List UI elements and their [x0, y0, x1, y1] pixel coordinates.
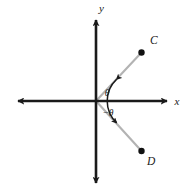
point-D-label: D — [146, 155, 156, 167]
coordinate-plane-svg: y x C D θ −θ — [0, 0, 189, 195]
point-C-label: C — [150, 34, 158, 46]
x-axis-label: x — [174, 95, 180, 107]
ray-to-C-line — [96, 53, 142, 102]
theta-label: θ — [105, 88, 110, 98]
math-figure: y x C D θ −θ — [0, 0, 189, 195]
point-C-dot — [138, 49, 144, 55]
negative-theta-label: −θ — [102, 108, 113, 118]
axes-group — [18, 20, 167, 183]
y-axis-label: y — [98, 2, 104, 14]
point-D-dot — [138, 148, 144, 154]
